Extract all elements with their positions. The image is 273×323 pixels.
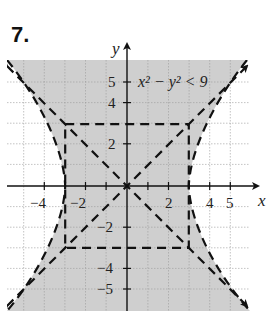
y-tick-label: −4 [97, 260, 113, 276]
y-tick-label: −5 [97, 281, 113, 297]
x-tick-label: −2 [70, 195, 86, 211]
y-tick-label: 5 [108, 74, 116, 90]
x-tick-label: −4 [30, 195, 46, 211]
y-tick-label: 2 [108, 136, 116, 152]
y-tick-label: 4 [108, 95, 116, 111]
x-tick-label: 4 [206, 195, 214, 211]
x-tick-label: 5 [226, 195, 234, 211]
inequality-graph: −4 −2 2 4 5 5 4 2 −2 −4 −5 x y x² − y² <… [0, 0, 273, 323]
x-axis-label: x [257, 191, 266, 210]
x-tick-label: 2 [165, 195, 173, 211]
inequality-label: x² − y² < 9 [137, 73, 207, 91]
y-tick-label: −2 [97, 219, 113, 235]
y-axis-label: y [110, 39, 120, 58]
